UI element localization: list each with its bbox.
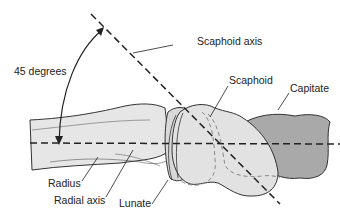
radial-axis-label: Radial axis [54,194,105,206]
wrist-diagram: 45 degrees Scaphoid axis Scaphoid Capita… [0,0,340,221]
angle-label: 45 degrees [14,65,67,77]
capitate-leader [278,93,289,110]
scaphoid-label: Scaphoid [229,74,273,86]
lunate-leader [152,180,168,204]
lunate-label: Lunate [119,197,151,209]
radius-bone [30,104,170,170]
radius-label: Radius [48,177,81,189]
scaphoid-axis-leader [133,45,173,53]
scaphoid-axis-label: Scaphoid axis [197,35,262,47]
capitate-label: Capitate [290,82,329,94]
